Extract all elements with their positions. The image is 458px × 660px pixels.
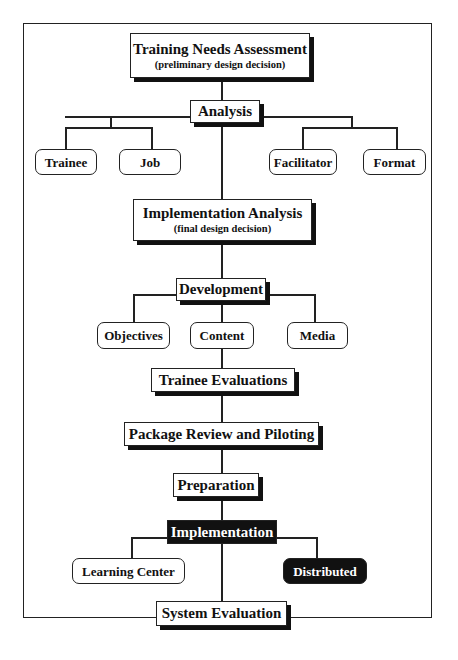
node-label: Trainee Evaluations [159,372,287,389]
node-implementation: Implementation [167,520,277,544]
node-media: Media [287,322,348,349]
node-learning-center: Learning Center [72,558,185,584]
node-development: Development [176,278,266,301]
node-label: Learning Center [82,564,175,579]
node-label: Job [140,155,160,170]
node-label: Objectives [104,328,162,343]
connector-format [396,127,398,149]
node-content: Content [190,322,254,349]
connector-distributed [316,537,318,558]
node-facilitator: Facilitator [269,149,337,175]
node-analysis: Analysis [190,100,260,123]
node-label: Package Review and Piloting [129,426,314,443]
node-system-evaluation: System Evaluation [156,601,287,626]
node-package-review-and-piloting: Package Review and Piloting [124,422,319,446]
node-trainee: Trainee [35,149,97,175]
node-label: Analysis [198,103,252,120]
node-label: Implementation Analysis [143,205,303,222]
connector-analysis-right-bar [302,127,397,129]
node-distributed: Distributed [283,558,367,584]
node-label: Preparation [177,477,254,494]
node-format: Format [363,149,426,175]
connector-facilitator [302,127,304,149]
node-label: Media [300,328,335,343]
node-label: Distributed [293,564,357,579]
node-sublabel: (final design decision) [174,222,271,235]
node-label: Trainee [45,155,87,170]
node-training-needs-assessment: Training Needs Assessment (preliminary d… [130,33,310,78]
node-label: Development [179,281,263,298]
node-implementation-analysis: Implementation Analysis (final design de… [133,199,312,241]
node-objectives: Objectives [97,322,170,349]
connector-trainee [65,127,67,149]
node-job: Job [119,149,181,175]
node-label: Facilitator [274,155,332,170]
connector-job [151,127,153,149]
node-label: Format [374,155,416,170]
node-preparation: Preparation [173,473,259,497]
node-label: Content [200,328,245,343]
node-trainee-evaluations: Trainee Evaluations [151,368,295,392]
node-label: Implementation [171,524,274,541]
connector-media [314,294,316,322]
connector-objectives [133,294,135,322]
connector-analysis-left-bar [65,127,152,129]
node-sublabel: (preliminary design decision) [155,58,285,71]
connector-analysis-left [65,116,190,118]
connector-learning-center [131,537,133,558]
node-label: System Evaluation [162,605,282,622]
node-label: Training Needs Assessment [133,41,307,58]
connector-analysis-right [259,116,352,118]
